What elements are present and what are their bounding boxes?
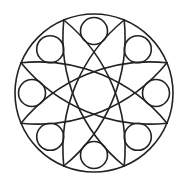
mandala-svg	[0, 0, 190, 185]
small-circle-top-right	[124, 36, 151, 63]
mandala-figure: Circular geometric mandala pattern	[0, 0, 190, 185]
small-circle-top-left	[37, 36, 64, 63]
outer-circle	[15, 14, 173, 172]
small-circle-right	[143, 80, 170, 107]
small-circle-bottom-right	[124, 123, 151, 150]
small-circle-left	[19, 80, 46, 107]
lens-arcs-group	[21, 20, 167, 166]
small-circle-bottom-left	[37, 123, 64, 150]
small-circle-top	[81, 18, 108, 45]
small-circles-group	[19, 18, 170, 169]
small-circle-bottom	[81, 142, 108, 169]
